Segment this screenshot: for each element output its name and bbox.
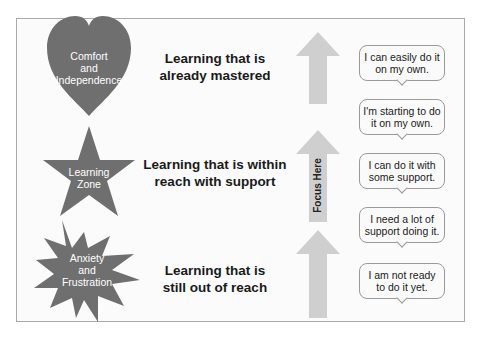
- focus-here-label: Focus Here: [307, 150, 327, 220]
- description-within-reach: Learning that is within reach with suppo…: [130, 156, 300, 190]
- speech-bubble: I can do it with some support.: [359, 153, 445, 189]
- arrow-up-icon: [296, 230, 340, 318]
- heart-label: Comfort and Independence: [45, 50, 133, 86]
- arrow-up-icon: [296, 32, 340, 104]
- burst-label: Anxiety and Frustration: [32, 252, 142, 288]
- speech-bubble: I can easily do it on my own.: [359, 45, 445, 81]
- description-mastered: Learning that is already mastered: [140, 50, 290, 84]
- speech-bubble: I need a lot of support doing it.: [359, 207, 445, 243]
- star-label: Learning Zone: [41, 166, 137, 190]
- speech-bubble: I'm starting to do it on my own.: [359, 99, 445, 135]
- speech-bubble: I am not ready to do it yet.: [359, 263, 445, 299]
- description-out-of-reach: Learning that is still out of reach: [140, 262, 290, 296]
